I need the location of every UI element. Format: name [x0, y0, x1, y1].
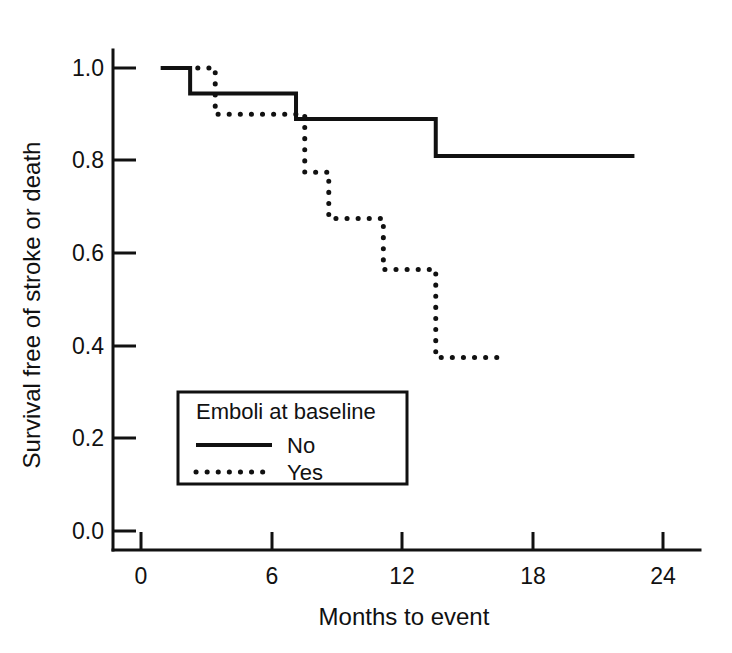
legend: Emboli at baseline No Yes [178, 392, 407, 485]
x-tick-label-18: 18 [520, 563, 546, 589]
x-tick-label-0: 0 [135, 563, 148, 589]
y-tick-label-1.0: 1.0 [72, 55, 104, 81]
y-tick-label-0.4: 0.4 [72, 333, 104, 359]
legend-title: Emboli at baseline [196, 399, 376, 424]
y-axis-title: Survival free of stroke or death [18, 142, 45, 469]
kaplan-meier-figure: 1.0 0.8 0.6 0.4 0.2 0.0 0 6 12 18 24 Mon… [0, 0, 732, 653]
series-line-no [161, 68, 635, 156]
legend-label-yes: Yes [287, 460, 323, 485]
x-tick-label-24: 24 [650, 563, 676, 589]
x-axis-title: Months to event [319, 603, 490, 630]
survival-plot: 1.0 0.8 0.6 0.4 0.2 0.0 0 6 12 18 24 Mon… [0, 0, 732, 653]
x-axis-tick-labels: 0 6 12 18 24 [135, 563, 676, 589]
x-tick-label-6: 6 [266, 563, 279, 589]
x-tick-label-12: 12 [389, 563, 415, 589]
y-tick-label-0.2: 0.2 [72, 425, 104, 451]
series-line-yes [198, 68, 497, 357]
y-tick-label-0.0: 0.0 [72, 518, 104, 544]
y-tick-label-0.8: 0.8 [72, 147, 104, 173]
y-axis-ticks [113, 68, 136, 531]
y-axis-tick-labels: 1.0 0.8 0.6 0.4 0.2 0.0 [72, 55, 104, 544]
x-axis-ticks [141, 532, 663, 550]
legend-label-no: No [287, 433, 315, 458]
y-tick-label-0.6: 0.6 [72, 240, 104, 266]
